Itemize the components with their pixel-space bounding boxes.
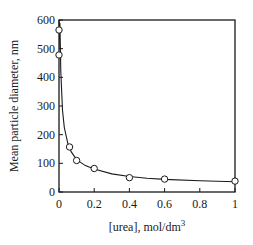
data-points xyxy=(56,27,238,184)
plot-frame xyxy=(59,20,235,192)
chart: 0100200300400500600 00.20.40.60.81 Mean … xyxy=(0,0,253,245)
data-point xyxy=(56,27,62,33)
y-tick-label: 500 xyxy=(37,42,55,56)
data-point xyxy=(232,178,238,184)
y-tick-label: 0 xyxy=(49,185,55,199)
y-tick-label: 200 xyxy=(37,128,55,142)
fit-curve xyxy=(59,20,235,182)
y-tick-label: 400 xyxy=(37,70,55,84)
y-tick-label: 100 xyxy=(37,156,55,170)
x-tick-label: 1 xyxy=(232,197,238,211)
data-point xyxy=(126,174,132,180)
x-tick-label: 0 xyxy=(56,197,62,211)
y-tick-label: 300 xyxy=(37,99,55,113)
x-tick-label: 0.6 xyxy=(157,197,172,211)
data-point xyxy=(73,157,79,163)
chart-svg: 0100200300400500600 00.20.40.60.81 Mean … xyxy=(0,0,253,245)
x-tick-label: 0.2 xyxy=(87,197,102,211)
x-tick-label: 0.8 xyxy=(192,197,207,211)
data-point xyxy=(91,165,97,171)
y-axis-title: Mean particle diameter, nm xyxy=(7,39,21,172)
y-tick-label: 600 xyxy=(37,13,55,27)
data-point xyxy=(161,176,167,182)
data-point xyxy=(66,144,72,150)
data-point xyxy=(56,52,62,58)
x-tick-label: 0.4 xyxy=(122,197,137,211)
x-axis-title: [urea], mol/dm3 xyxy=(109,218,186,234)
